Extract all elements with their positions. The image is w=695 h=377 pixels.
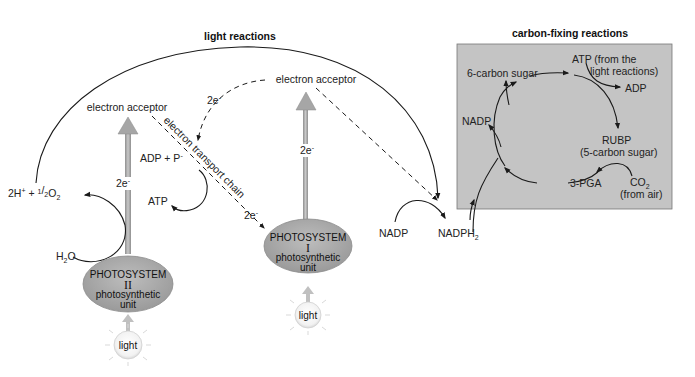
- h2o-label: H2O: [56, 250, 76, 264]
- atp-from-light-line2: light reactions): [590, 65, 658, 77]
- from-air-label: (from air): [620, 188, 663, 200]
- light-label-ps2: light: [119, 340, 138, 351]
- oxygen-products: 2H+ + 1/2O2: [8, 184, 60, 201]
- rubp-label: RUBP: [602, 134, 631, 146]
- carbon-fixing-title: carbon-fixing reactions: [512, 27, 628, 39]
- five-carbon-sugar-label: (5-carbon sugar): [580, 146, 658, 158]
- pga-label: 3-PGA: [570, 177, 602, 189]
- light-reactions-title: light reactions: [204, 30, 276, 42]
- atp-from-light-line1: ATP (from the: [572, 53, 637, 65]
- ps2-line3: unit: [120, 299, 136, 310]
- main-arc-arrow: [36, 47, 438, 198]
- etc-2e-label: 2e-: [244, 209, 259, 221]
- electron-acceptor-right: electron acceptor: [276, 73, 357, 85]
- electron-acceptor-left: electron acceptor: [87, 101, 168, 113]
- calvin-nadp-label: NADP: [462, 115, 491, 127]
- light-label-ps1: light: [299, 310, 318, 321]
- water-split-arrow: [73, 195, 125, 262]
- photosynthesis-diagram: light reactions electron acceptor 2e- 2H…: [0, 0, 695, 377]
- nadp-reduction-arrow: [395, 200, 445, 222]
- nadp-label: NADP: [379, 227, 408, 239]
- ps1-to-nadph-dashed-arrow: [316, 88, 437, 200]
- top-2e-label: 2e-: [207, 94, 222, 106]
- six-carbon-sugar-label: 6-carbon sugar: [467, 67, 538, 79]
- ps1-electron-arrow: [296, 92, 316, 225]
- cyclic-electron-dashed-arrow: [198, 80, 265, 140]
- atp-label: ATP: [148, 195, 168, 207]
- ps1-line3: unit: [300, 262, 316, 273]
- atp-synthesis-arrow: [172, 170, 207, 211]
- adp-label: ADP: [625, 82, 647, 94]
- adp-p-label: ADP + P-: [140, 152, 183, 164]
